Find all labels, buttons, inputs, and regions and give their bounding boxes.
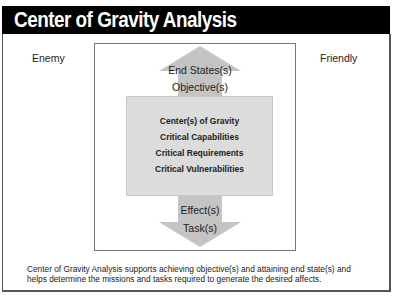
center-of-gravity-item: Center(s) of Gravity (127, 116, 272, 126)
critical-vulnerabilities-item: Critical Vulnerabilities (127, 164, 272, 174)
critical-capabilities-item: Critical Capabilities (127, 132, 272, 142)
objectives-label: Objective(s) (140, 81, 260, 93)
core-analysis-box: Center(s) of Gravity Critical Capabiliti… (126, 96, 273, 196)
description-text: Center of Gravity Analysis supports achi… (27, 264, 367, 284)
critical-requirements-item: Critical Requirements (127, 148, 272, 158)
effects-label: Effect(s) (140, 204, 260, 216)
tasks-label: Task(s) (140, 222, 260, 234)
end-states-label: End States(s) (140, 64, 260, 76)
down-arrow-icon (159, 195, 241, 247)
